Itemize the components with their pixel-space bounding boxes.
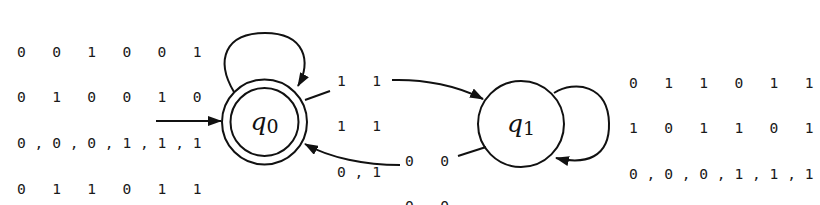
label-row: 1 1	[337, 73, 381, 88]
edge-q0-q1	[392, 80, 483, 99]
state-q1: q1	[478, 81, 564, 167]
label-q0-self-loop: 0 0 1 0 0 1 0 1 0 0 1 0 0 , 0 , 0 , 1 , …	[17, 13, 202, 205]
q0-self-loop	[225, 33, 305, 92]
label-q1-to-q0: 0 0 0 0 0 , 1 1 1	[405, 122, 449, 205]
label-row: 0 1 0 0 1 0	[17, 89, 202, 104]
edge-q0-q1-stub	[305, 91, 330, 100]
state-q0: q0	[222, 80, 307, 165]
state-q0-label: q0	[250, 107, 278, 137]
label-row: 0 0	[405, 153, 449, 168]
label-row: 1 0 1 1 0 1	[629, 120, 814, 135]
state-q1-label: q1	[507, 109, 535, 139]
label-q1-self-loop: 0 1 1 0 1 1 1 0 1 1 0 1 0 , 0 , 0 , 1 , …	[629, 44, 814, 205]
label-row: 0 , 1	[337, 164, 381, 179]
label-row: 0 , 0 , 0 , 1 , 1 , 1	[17, 135, 202, 150]
label-q0-to-q1: 1 1 1 1 0 , 1 0 0	[337, 42, 381, 205]
label-row: 0 , 0 , 0 , 1 , 1 , 1	[629, 166, 814, 181]
label-row: 0 1 1 0 1 1	[17, 181, 202, 196]
label-row: 1 1	[337, 118, 381, 133]
label-row: 0 0 1 0 0 1	[17, 44, 202, 59]
label-row: 0 0	[405, 198, 449, 205]
edge-q1-q0-stub	[458, 147, 486, 156]
label-row: 0 1 1 0 1 1	[629, 75, 814, 90]
q1-self-loop	[554, 87, 609, 161]
